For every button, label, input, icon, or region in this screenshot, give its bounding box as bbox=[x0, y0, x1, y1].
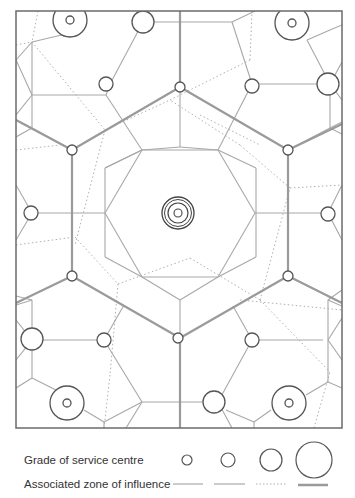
centre-grade2 bbox=[24, 206, 38, 220]
centre-grade2 bbox=[99, 77, 113, 91]
centre-grade1 bbox=[283, 145, 293, 155]
centre-grade3 bbox=[317, 73, 339, 95]
legend-zone-label: Associated zone of influence bbox=[24, 478, 170, 490]
legend-grade2-circle bbox=[221, 453, 235, 467]
legend: Grade of service centre Associated zone … bbox=[0, 440, 355, 498]
centre-grade2 bbox=[97, 333, 111, 347]
centre-grade1 bbox=[175, 82, 185, 92]
centre-grade2 bbox=[321, 207, 335, 221]
centre-grade1 bbox=[67, 271, 77, 281]
centre-grade2 bbox=[245, 333, 259, 347]
legend-grade1-circle bbox=[182, 455, 192, 465]
centre-grade1 bbox=[283, 271, 293, 281]
centre-grade1 bbox=[67, 145, 77, 155]
centre-grade1 bbox=[173, 333, 183, 343]
central-city bbox=[162, 197, 194, 229]
legend-grade3-circle bbox=[260, 449, 282, 471]
central-place-diagram bbox=[0, 0, 355, 440]
legend-grade4-circle bbox=[296, 442, 332, 478]
centre-grade3 bbox=[21, 328, 43, 350]
centre-grade2 bbox=[245, 79, 259, 93]
heavy-zone-hexagon bbox=[16, 11, 342, 428]
centre-grade3 bbox=[203, 391, 225, 413]
legend-grade-label: Grade of service centre bbox=[24, 454, 144, 466]
centre-grade3 bbox=[132, 11, 154, 33]
